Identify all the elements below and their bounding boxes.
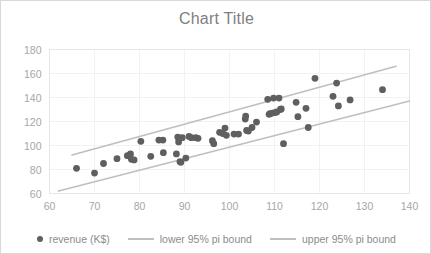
y-axis-tick-labels: 6080100120140160180 [24, 44, 42, 200]
x-tick-label: 100 [221, 200, 239, 212]
pi-bound-line [72, 66, 396, 155]
scatter-point [278, 106, 285, 113]
x-tick-label: 60 [44, 200, 56, 212]
y-tick-label: 120 [24, 116, 42, 128]
scatter-point [73, 165, 80, 172]
prediction-interval-lines [59, 66, 410, 191]
legend-item[interactable]: upper 95% pi bound [261, 233, 405, 245]
plot-area: 6080100120140160180 60708090100110120130… [1, 1, 431, 254]
scatter-point [293, 99, 300, 106]
gridlines [50, 50, 410, 194]
scatter-point [312, 75, 319, 82]
legend-item-label: revenue (K$) [49, 233, 110, 245]
x-axis-tick-labels: 60708090100110120130140 [44, 200, 419, 212]
scatter-point [114, 155, 121, 162]
scatter-point [223, 132, 230, 139]
legend-line-icon [270, 238, 296, 240]
scatter-point [137, 138, 144, 145]
y-tick-label: 160 [24, 68, 42, 80]
scatter-point [173, 151, 180, 158]
scatter-point [253, 119, 260, 126]
legend-item-label: upper 95% pi bound [302, 233, 396, 245]
legend-dot-icon [37, 236, 43, 242]
scatter-point [222, 125, 229, 132]
y-tick-label: 140 [24, 92, 42, 104]
scatter-point [305, 124, 312, 131]
y-tick-label: 180 [24, 44, 42, 56]
x-tick-label: 70 [89, 200, 101, 212]
scatter-point [160, 137, 167, 144]
scatter-point [100, 160, 107, 167]
legend-item[interactable]: revenue (K$) [28, 233, 119, 245]
x-tick-label: 80 [134, 200, 146, 212]
scatter-point [242, 113, 249, 120]
y-tick-label: 80 [30, 164, 42, 176]
scatter-point [303, 105, 310, 112]
scatter-point [295, 113, 302, 120]
scatter-point [347, 97, 354, 104]
scatter-point [91, 170, 98, 177]
scatter-point [330, 93, 337, 100]
scatter-point [195, 135, 202, 142]
scatter-point [280, 140, 287, 147]
scatter-point [264, 96, 271, 103]
scatter-point [131, 157, 138, 164]
legend-line-icon [128, 238, 154, 240]
scatter-point [235, 131, 242, 138]
x-tick-label: 110 [266, 200, 283, 212]
legend-item-label: lower 95% pi bound [160, 233, 252, 245]
scatter-point [160, 149, 167, 156]
scatter-point [249, 124, 256, 131]
scatter-point [333, 80, 340, 87]
scatter-point [179, 134, 186, 141]
scatter-point [335, 103, 342, 110]
pi-bound-line [59, 101, 410, 191]
scatter-point [147, 153, 154, 160]
scatter-point [379, 86, 386, 93]
scatter-point [276, 95, 283, 102]
y-tick-label: 100 [24, 140, 42, 152]
chart-legend: revenue (K$)lower 95% pi boundupper 95% … [1, 233, 431, 245]
x-tick-label: 130 [356, 200, 374, 212]
x-tick-label: 120 [311, 200, 329, 212]
chart-container: Chart Title 6080100120140160180 60708090… [0, 0, 431, 254]
scatter-point [210, 140, 217, 147]
scatter-point [182, 155, 189, 162]
legend-item[interactable]: lower 95% pi bound [119, 233, 261, 245]
y-tick-label: 60 [30, 188, 42, 200]
x-tick-label: 140 [401, 200, 419, 212]
x-tick-label: 90 [179, 200, 191, 212]
